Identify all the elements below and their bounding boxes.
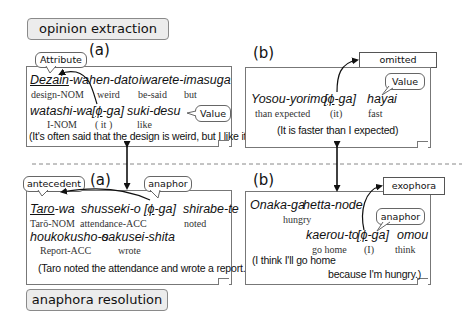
callout-antecedent: antecedent — [23, 176, 85, 192]
page-fold-oe-b — [417, 141, 428, 148]
callout-value-text: Value — [200, 108, 226, 119]
opinion-extraction-tag: opinion extraction — [27, 18, 169, 40]
word-wa: -wa — [55, 202, 75, 216]
anaphora-resolution-label: anaphora resolution — [32, 292, 163, 307]
callout-anaphor-ar-a: anaphor — [144, 176, 192, 192]
word-hayai: hayai — [367, 92, 397, 106]
word-taro: Taro — [30, 202, 55, 216]
word-yosou-yorimo: Yosou-yorimo — [251, 92, 327, 106]
translation-oe-b: (It is faster than I expected) — [277, 124, 398, 136]
gloss-weird: weird — [97, 89, 120, 100]
word-suki-desu: suki-desu — [127, 104, 181, 118]
exophora-label: exophora — [383, 177, 445, 195]
word-hetta-node: hetta-node — [303, 198, 363, 212]
word-watashi-wa: watashi-wa — [30, 104, 93, 118]
oe-a-line1: Dezain-wa — [30, 73, 89, 87]
word-shirabe-te: shirabe-te — [183, 202, 239, 216]
word-sakusei-shita: sakusei-shita — [102, 230, 175, 244]
callout-antecedent-text: antecedent — [27, 178, 81, 189]
oe-b-zero-pronoun: [ϕ-ga] — [324, 92, 356, 106]
gloss-i: (I) — [364, 244, 374, 255]
gloss-but: but — [184, 89, 197, 100]
panel-label-oe-a: (a) — [89, 41, 110, 59]
word-dezain: Dezain — [30, 73, 69, 87]
word-wa: -wa — [69, 73, 89, 87]
oe-a-zero-pronoun: [ϕ-ga] — [92, 104, 124, 118]
panel-label-ar-b: (b) — [253, 171, 274, 189]
gloss-noted: noted — [184, 218, 206, 229]
gloss-like: like — [137, 119, 152, 130]
anaphora-resolution-tag: anaphora resolution — [26, 289, 168, 311]
ar-a-line1-taro: Taro-wa — [30, 202, 75, 216]
callout-anaphor-text: anaphor — [148, 178, 187, 189]
callout-value-text: Value — [392, 76, 418, 87]
word-houkokusho-o: houkokusho-o — [30, 230, 109, 244]
callout-attribute-text: Attribute — [40, 54, 82, 65]
callout-attribute: Attribute — [35, 52, 87, 68]
gloss-wrote: wrote — [118, 245, 141, 256]
word-onaka-ga: Onaka-ga — [250, 198, 305, 212]
translation-ar-a: (Taro noted the attendance and wrote a r… — [38, 262, 249, 274]
panel-label-ar-a: (a) — [90, 171, 111, 189]
word-omou: omou — [397, 228, 428, 242]
word-kaerou-to: kaerou-to — [306, 228, 359, 242]
opinion-extraction-label: opinion extraction — [39, 21, 157, 36]
gloss-it-b: (it) — [330, 108, 342, 119]
gloss-report-acc: Report-ACC — [40, 245, 91, 256]
word-shusseki-o: shusseki-o — [81, 202, 141, 216]
translation-ar-b-1: (I think I'll go home — [252, 254, 336, 266]
gloss-hungry: hungry — [283, 214, 311, 225]
gloss-it: ( it ) — [95, 119, 112, 130]
panel-label-oe-b: (b) — [253, 44, 274, 62]
gloss-be-said: be-said — [138, 89, 167, 100]
word-iwarete-imasuga: iwarete-imasuga — [139, 73, 231, 87]
ar-b-zero-pronoun: [ϕ-ga] — [357, 228, 389, 242]
callout-anaphor-text: anaphor — [381, 211, 420, 222]
page-fold-ar-a — [218, 278, 229, 285]
gloss-design-nom: design-NOM — [31, 89, 84, 100]
translation-ar-b-2: because I'm hungry.) — [328, 268, 421, 280]
gloss-i-nom: I-NOM — [47, 119, 77, 130]
word-hen-dato: hen-dato — [89, 73, 138, 87]
gloss-think: think — [395, 244, 416, 255]
exophora-text: exophora — [392, 180, 436, 191]
callout-anaphor-ar-b: anaphor — [376, 208, 425, 225]
ar-a-zero-pronoun: [ϕ-ga] — [144, 202, 176, 216]
gloss-than-expected: than expected — [255, 108, 310, 119]
callout-value-oe-a: Value — [195, 105, 231, 122]
gloss-attendance-acc: attendance-ACC — [80, 218, 147, 229]
gloss-fast: fast — [368, 108, 382, 119]
translation-oe-a: (It's often said that the design is weir… — [29, 130, 252, 142]
gloss-taro-nom: Tarō-NOM — [30, 218, 75, 229]
callout-value-oe-b: Value — [385, 73, 425, 90]
omitted-attribute-label: omitted Attribute — [359, 52, 437, 68]
